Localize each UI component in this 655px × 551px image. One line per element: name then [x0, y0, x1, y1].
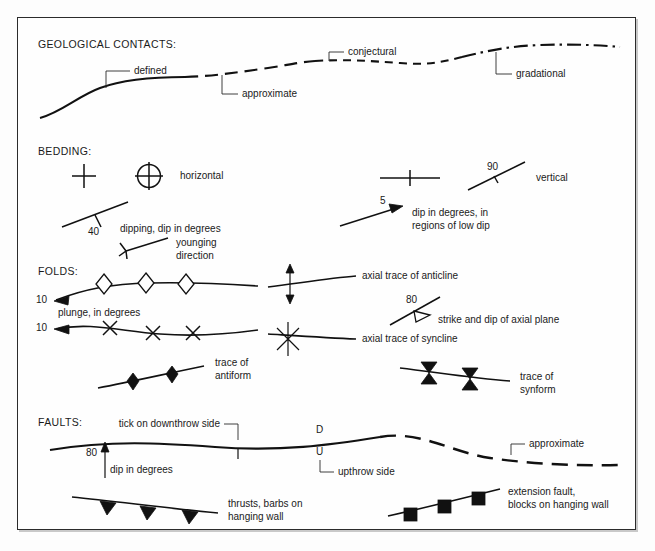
bedding-horizontal-label: horizontal — [180, 170, 223, 181]
bedding-younging-label-line2: direction — [176, 250, 214, 261]
fault-solid-line — [50, 437, 380, 450]
strike-dip-axial-plane-label: strike and dip of axial plane — [438, 314, 560, 325]
leader-upthrow-side — [320, 460, 334, 472]
contact-conjectural-line — [315, 57, 462, 64]
fault-dip-80-value: 80 — [86, 447, 98, 458]
fault-dip-in-degrees-label: dip in degrees — [110, 464, 173, 475]
thrust-label-line2: hanging wall — [228, 511, 284, 522]
extension-fault-symbol — [388, 489, 500, 521]
contacts-section-heading: GEOLOGICAL CONTACTS: — [38, 38, 176, 50]
synform-label-line1: trace of — [520, 371, 554, 382]
contact-conjectural-label: conjectural — [348, 46, 396, 57]
fault-upthrow-marker-U: U — [316, 446, 323, 457]
anticline-trace-symbol — [54, 273, 258, 305]
folds-axial-dip-80-value: 80 — [406, 294, 418, 305]
folds-plunge-syncline-value: 10 — [36, 322, 48, 333]
axial-trace-anticline-label: axial trace of anticline — [362, 270, 459, 281]
folds-plunge-anticline-value: 10 — [36, 294, 48, 305]
bedding-dip-5-value: 5 — [380, 195, 386, 206]
horizontal-bedding-cross-symbol — [72, 164, 96, 188]
faults-section-heading: FAULTS: — [38, 416, 82, 428]
extension-fault-label-line1: extension fault, — [508, 486, 575, 497]
leader-gradational — [496, 52, 512, 74]
fault-tick-downthrow-label: tick on downthrow side — [119, 418, 221, 429]
dipping-bedding-symbol — [62, 202, 128, 227]
bedding-strike-with-tick-symbol — [380, 170, 440, 186]
bedding-younging-label-line1: younging — [176, 237, 217, 248]
bedding-dipping-label: dipping, dip in degrees — [120, 223, 221, 234]
axial-trace-syncline-label: axial trace of syncline — [362, 333, 458, 344]
bedding-lowdip-label-line2: regions of low dip — [412, 220, 490, 231]
leader-fault-approximate — [511, 444, 525, 455]
axial-trace-syncline-symbol — [268, 322, 356, 356]
fault-approximate-label: approximate — [529, 438, 584, 449]
thrust-fault-symbol — [72, 497, 218, 524]
younging-direction-symbol — [119, 238, 168, 259]
syncline-trace-symbol — [54, 321, 258, 340]
leader-approximate — [222, 75, 238, 94]
synform-label-line2: synform — [520, 384, 556, 395]
antiform-trace-symbol — [98, 366, 204, 390]
bedding-dip-40-value: 40 — [88, 226, 100, 237]
bedding-dip-90-value: 90 — [487, 161, 499, 172]
synform-trace-symbol — [400, 362, 510, 390]
bedding-lowdip-label-line1: dip in degrees, in — [412, 207, 488, 218]
bedding-vertical-label: vertical — [536, 172, 568, 183]
low-dip-arrow-symbol — [340, 204, 403, 226]
thrust-label-line1: thrusts, barbs on — [228, 498, 302, 509]
fault-upthrow-side-label: upthrow side — [338, 466, 395, 477]
fault-dip-arrow-symbol — [101, 442, 109, 478]
contact-defined-line — [40, 77, 185, 118]
horizontal-bedding-circled-cross-symbol — [135, 162, 163, 190]
fault-downthrow-marker-D: D — [316, 424, 323, 435]
bedding-section-heading: BEDDING: — [38, 145, 92, 157]
extension-fault-label-line2: blocks on hanging wall — [508, 499, 609, 510]
contact-approximate-label: approximate — [242, 88, 297, 99]
leader-tick-downthrow — [224, 424, 238, 440]
antiform-label-line1: trace of — [215, 357, 249, 368]
contact-defined-label: defined — [134, 65, 167, 76]
contact-approximate-line — [185, 61, 315, 77]
axial-trace-anticline-symbol — [268, 264, 356, 304]
contact-gradational-label: gradational — [516, 68, 565, 79]
folds-section-heading: FOLDS: — [38, 265, 78, 277]
contact-gradational-line — [462, 45, 620, 57]
antiform-label-line2: antiform — [215, 370, 251, 381]
geological-legend-figure: GEOLOGICAL CONTACTS: defined approximate… — [0, 0, 655, 551]
folds-plunge-label: plunge, in degrees — [58, 307, 140, 318]
legend-drawing-canvas: GEOLOGICAL CONTACTS: defined approximate… — [0, 0, 655, 551]
